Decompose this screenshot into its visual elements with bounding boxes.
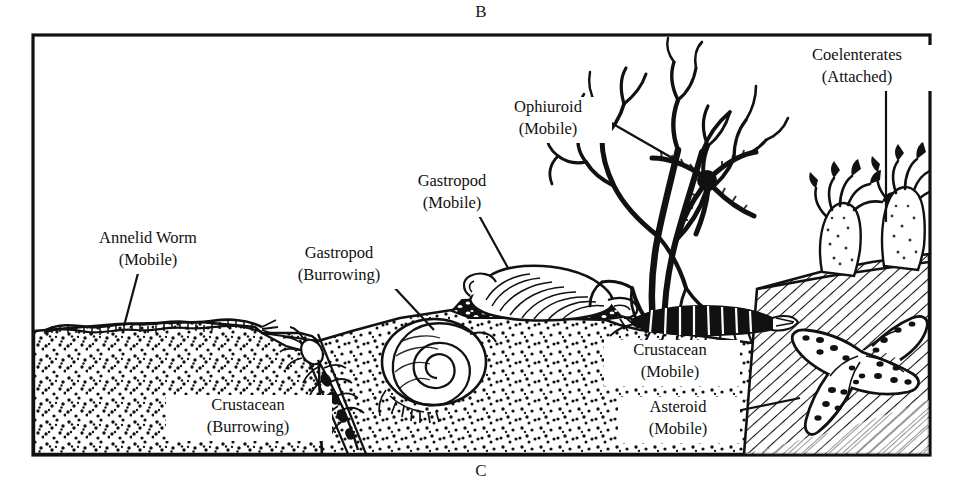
label-crustacean-burrowing: Crustacean (Burrowing): [166, 395, 332, 441]
label-annelid-worm: Annelid Worm (Mobile): [55, 228, 241, 274]
label-asteroid: Asteroid (Mobile): [618, 397, 740, 443]
figure-caption-bottom: C: [0, 461, 962, 481]
figure-illustration: Annelid Worm (Mobile) Gastropod (Burrowi…: [0, 0, 962, 489]
label-crustacean-mobile-line1: Crustacean: [633, 340, 706, 359]
label-gastropod-burrowing: Gastropod (Burrowing): [262, 243, 418, 289]
label-ophiuroid-line1: Ophiuroid: [514, 97, 583, 116]
label-coelenterates-line2: (Attached): [822, 67, 893, 86]
label-coelenterates-line1: Coelenterates: [812, 45, 902, 64]
label-crustacean-burrowing-line1: Crustacean: [211, 395, 284, 414]
label-coelenterates: Coelenterates (Attached): [782, 45, 932, 91]
label-annelid-worm-line1: Annelid Worm: [99, 228, 197, 247]
label-crustacean-burrowing-line2: (Burrowing): [207, 417, 289, 436]
label-ophiuroid-line2: (Mobile): [519, 119, 578, 138]
label-asteroid-line2: (Mobile): [649, 419, 708, 438]
label-gastropod-burrowing-line1: Gastropod: [305, 243, 374, 262]
figure-caption-top: B: [0, 2, 962, 22]
figure-panel: B: [0, 0, 962, 489]
label-gastropod-mobile-line1: Gastropod: [418, 171, 487, 190]
label-ophiuroid: Ophiuroid (Mobile): [484, 97, 612, 143]
label-asteroid-line1: Asteroid: [650, 397, 708, 416]
label-annelid-worm-line2: (Mobile): [119, 250, 178, 269]
label-gastropod-mobile: Gastropod (Mobile): [386, 171, 526, 217]
label-crustacean-mobile: Crustacean (Mobile): [604, 340, 740, 386]
label-gastropod-mobile-line2: (Mobile): [423, 193, 482, 212]
label-gastropod-burrowing-line2: (Burrowing): [298, 265, 380, 284]
label-crustacean-mobile-line2: (Mobile): [641, 362, 700, 381]
